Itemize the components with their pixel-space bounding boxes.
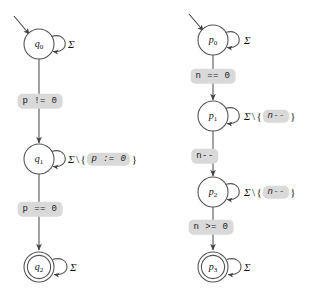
- self-loop-label-q1: Σ\{p := 0}: [68, 153, 137, 166]
- transition-label-q1-q2: p == 0: [18, 202, 63, 217]
- setminus-symbol-q1: \: [76, 154, 79, 165]
- self-loop-label-p0: Σ: [244, 35, 251, 46]
- sigma-symbol-p1: Σ: [244, 111, 251, 122]
- brace-open-p1: {: [257, 111, 262, 122]
- state-label-q2: q2: [35, 262, 44, 272]
- transition-label-p1-p2: n--: [191, 149, 218, 164]
- self-loop-label-p1: Σ\{n--}: [244, 110, 296, 123]
- brace-open-p2: {: [257, 187, 262, 198]
- setminus-symbol-p1: \: [252, 111, 255, 122]
- diagram-canvas: q0 q1 q2 Σ Σ\{p := 0} Σ p != 0 p == 0 p0…: [0, 0, 316, 296]
- self-loop-label-p2: Σ\{n--}: [244, 186, 296, 199]
- initial-arrow-p0: [189, 14, 204, 31]
- self-loop-label-q0: Σ: [68, 39, 75, 50]
- brace-close-p1: }: [290, 111, 295, 122]
- self-loop-label-p3: Σ: [244, 262, 251, 273]
- state-label-p1: p1: [209, 111, 218, 121]
- transition-label-q0-q1: p != 0: [18, 94, 63, 109]
- brace-close-q1: }: [132, 154, 137, 165]
- automata-vector-layer: [0, 0, 316, 296]
- self-loop-guard-chip-q1: p := 0: [87, 153, 130, 166]
- left-automaton-group: [14, 16, 67, 282]
- transition-label-p2-p3: n >= 0: [189, 220, 234, 235]
- self-loop-label-q2: Σ: [70, 262, 77, 273]
- transition-label-p0-p1: n == 0: [191, 69, 236, 84]
- brace-open-q1: {: [81, 154, 86, 165]
- setminus-symbol-p2: \: [252, 187, 255, 198]
- state-label-q1: q1: [35, 154, 44, 164]
- self-loop-p3: [227, 259, 241, 275]
- state-label-p3: p3: [209, 262, 218, 272]
- brace-close-p2: }: [290, 187, 295, 198]
- state-label-p0: p0: [209, 35, 218, 45]
- self-loop-guard-chip-p2: n--: [263, 186, 288, 199]
- sigma-symbol-q1: Σ: [68, 154, 75, 165]
- sigma-symbol-p2: Σ: [244, 187, 251, 198]
- self-loop-guard-chip-p1: n--: [263, 110, 288, 123]
- initial-arrow-q0: [14, 16, 30, 35]
- self-loop-q2: [53, 259, 67, 275]
- state-label-q0: q0: [35, 39, 44, 49]
- state-label-p2: p2: [209, 187, 218, 197]
